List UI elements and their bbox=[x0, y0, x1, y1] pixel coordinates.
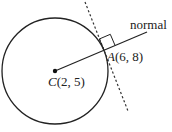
diagram-svg: normal A(6, 8) C(2, 5) bbox=[0, 0, 172, 132]
center-c-letter: C bbox=[48, 74, 57, 89]
center-point bbox=[53, 69, 57, 73]
right-angle-marker-edge bbox=[99, 39, 104, 50]
normal-label: normal bbox=[130, 17, 167, 32]
center-c-coords: (2, 5) bbox=[57, 74, 85, 89]
point-a-coords: (6, 8) bbox=[115, 49, 143, 64]
center-c-label: C(2, 5) bbox=[48, 74, 85, 89]
diagram-canvas: normal A(6, 8) C(2, 5) bbox=[0, 0, 172, 132]
point-a-letter: A bbox=[106, 49, 115, 64]
point-a-label: A(6, 8) bbox=[106, 49, 143, 64]
